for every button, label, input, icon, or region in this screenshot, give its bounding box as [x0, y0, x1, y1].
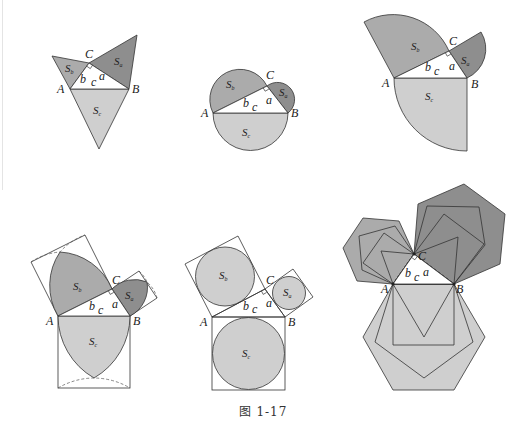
figure-caption: 图 1-17 — [0, 402, 526, 419]
triangle-s-c — [70, 89, 129, 149]
pythagorean-figures-diagram: A B C b c a Sb Sa Sc A B C b c a Sb Sa S… — [0, 0, 526, 400]
side-a-label: a — [449, 59, 455, 73]
vertex-dot-a — [391, 282, 394, 285]
side-a-label: a — [266, 93, 272, 107]
side-c-label: c — [414, 270, 420, 284]
side-a-label: a — [423, 265, 429, 279]
side-b-label: b — [80, 72, 86, 86]
side-a-label: a — [112, 297, 118, 311]
vertex-c-label: C — [418, 249, 427, 263]
side-b-label: b — [405, 266, 411, 280]
vertex-b-label: B — [471, 77, 479, 91]
side-c-label: c — [252, 100, 258, 114]
vertex-c-label: C — [266, 68, 275, 82]
vertex-b-label: B — [133, 314, 141, 328]
vertex-b-label: B — [288, 315, 296, 329]
side-b-label: b — [243, 299, 249, 313]
lens-dashed-c — [58, 378, 130, 388]
semicircle-s-c — [213, 113, 288, 151]
side-b-label: b — [243, 96, 249, 110]
vertex-a-label: A — [45, 314, 54, 328]
vertex-a-label: A — [200, 106, 209, 120]
figure-semicircles: A B C b c a Sb Sa Sc — [200, 68, 299, 151]
right-angle-mark — [261, 291, 266, 295]
vertex-a-label: A — [381, 76, 390, 90]
vertex-dot-c — [412, 252, 415, 255]
side-c-label: c — [434, 64, 440, 78]
figure-quarter-circles: A B C b c a Sb Sa Sc — [364, 15, 486, 151]
side-b-label: b — [425, 60, 431, 74]
side-c-label: c — [98, 303, 104, 317]
figure-circles-in-squares: A B C b c a Sb Sa Sc — [185, 236, 313, 390]
vertex-a-label: A — [380, 282, 389, 296]
figure-equilateral-triangles: A B C b c a Sb Sa Sc — [52, 35, 140, 149]
figure-nested-polygons: A B C b c a — [343, 184, 505, 390]
vertex-b-label: B — [456, 282, 464, 296]
vertex-a-label: A — [199, 315, 208, 329]
quarter-circle-s-c — [394, 78, 467, 151]
side-c-label: c — [91, 75, 97, 89]
side-b-label: b — [89, 299, 95, 313]
side-c-label: c — [252, 302, 258, 316]
vertex-c-label: C — [449, 34, 458, 48]
vertex-b-label: B — [132, 82, 140, 96]
side-a-label: a — [266, 296, 272, 310]
vertex-c-label: C — [85, 47, 94, 61]
vertex-b-label: B — [291, 106, 299, 120]
vertex-c-label: C — [266, 273, 275, 287]
figure-lens-in-squares: A B C b c a Sb Sa Sc — [31, 235, 157, 388]
vertex-a-label: A — [56, 82, 65, 96]
side-a-label: a — [99, 69, 105, 83]
vertex-c-label: C — [112, 273, 121, 287]
